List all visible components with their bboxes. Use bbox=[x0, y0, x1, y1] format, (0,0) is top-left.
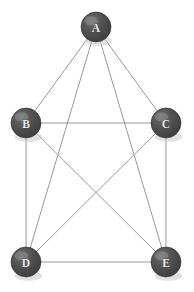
node-label: B bbox=[22, 118, 30, 130]
edges-layer bbox=[26, 27, 166, 262]
diagram-canvas: ABCDE bbox=[0, 0, 194, 292]
node-label: A bbox=[92, 22, 101, 34]
node-label: C bbox=[162, 118, 170, 130]
graph-svg: ABCDE bbox=[0, 0, 194, 292]
graph-node-e[interactable]: E bbox=[151, 247, 182, 281]
node-label: D bbox=[22, 257, 30, 269]
graph-node-a[interactable]: A bbox=[81, 12, 112, 46]
graph-node-d[interactable]: D bbox=[11, 247, 42, 281]
nodes-layer: ABCDE bbox=[11, 12, 182, 281]
node-label: E bbox=[162, 257, 170, 269]
graph-node-c[interactable]: C bbox=[151, 108, 182, 142]
graph-node-b[interactable]: B bbox=[11, 108, 42, 142]
